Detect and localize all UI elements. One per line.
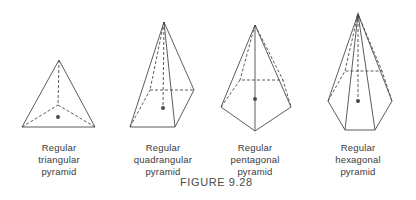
label-quadrangular: Regular quadrangular pyramid <box>118 142 208 178</box>
label-hexagonal: Regular hexagonal pyramid <box>313 142 403 178</box>
label-line: Regular <box>210 142 300 154</box>
base-center-dot <box>161 106 165 110</box>
base-center-dot <box>253 97 257 101</box>
label-line: Regular <box>118 142 208 154</box>
label-line: pyramid <box>14 166 104 178</box>
base-center-dot <box>56 115 60 119</box>
hexagonal-pyramid <box>328 12 392 130</box>
label-line: quadrangular <box>118 154 208 166</box>
label-line: Regular <box>313 142 403 154</box>
label-line: pyramid <box>313 166 403 178</box>
label-line: pentagonal <box>210 154 300 166</box>
label-line: Regular <box>14 142 104 154</box>
figure-caption: FIGURE 9.28 <box>180 176 253 188</box>
label-line: triangular <box>14 154 104 166</box>
quadrangular-pyramid <box>130 22 194 127</box>
label-triangular: Regular triangular pyramid <box>14 142 104 178</box>
triangular-pyramid <box>22 60 95 127</box>
label-line: hexagonal <box>313 154 403 166</box>
label-pentagonal: Regular pentagonal pyramid <box>210 142 300 178</box>
base-center-dot <box>356 99 360 103</box>
pentagonal-pyramid <box>221 25 291 131</box>
